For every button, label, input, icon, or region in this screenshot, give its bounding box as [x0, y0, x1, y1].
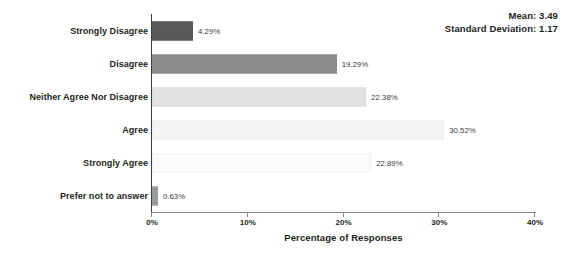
- bar-value-label: 19.29%: [342, 59, 368, 68]
- bar-row: Agree30.52%: [0, 113, 568, 146]
- bar: [152, 87, 366, 106]
- bar-value-label: 22.89%: [376, 158, 402, 167]
- bar-row: Neither Agree Nor Disagree22.38%: [0, 80, 568, 113]
- bar: [152, 54, 337, 73]
- bar-value-label: 22.38%: [371, 92, 397, 101]
- x-axis-tick-label: 40%: [527, 218, 543, 227]
- x-axis-tick: [343, 213, 344, 217]
- bar-row: Strongly Disagree4.29%: [0, 14, 568, 47]
- bar-value-label: 4.29%: [198, 26, 220, 35]
- x-axis-tick: [534, 213, 535, 217]
- x-axis-tick: [151, 213, 152, 217]
- x-axis-tick-label: 0%: [146, 218, 158, 227]
- x-axis-tick: [247, 213, 248, 217]
- survey-bar-chart: Mean: 3.49 Standard Deviation: 1.17 0%10…: [0, 0, 568, 258]
- x-axis-title: Percentage of Responses: [151, 232, 536, 243]
- bar-row: Strongly Agree22.89%: [0, 146, 568, 179]
- bar-row: Prefer not to answer0.63%: [0, 179, 568, 212]
- category-label: Strongly Disagree: [70, 26, 148, 36]
- bar: [152, 186, 158, 205]
- x-axis-tick-label: 20%: [335, 218, 351, 227]
- category-label: Strongly Agree: [83, 158, 148, 168]
- bar-value-label: 0.63%: [163, 191, 185, 200]
- x-axis-tick-label: 10%: [240, 218, 256, 227]
- bar: [152, 153, 371, 172]
- category-label: Neither Agree Nor Disagree: [29, 92, 148, 102]
- bar: [152, 120, 444, 139]
- x-axis-line: [151, 212, 536, 213]
- category-label: Disagree: [110, 59, 148, 69]
- category-label: Agree: [122, 125, 148, 135]
- bar: [152, 21, 193, 40]
- bar-row: Disagree19.29%: [0, 47, 568, 80]
- x-axis-tick: [438, 213, 439, 217]
- bar-value-label: 30.52%: [449, 125, 475, 134]
- category-label: Prefer not to answer: [60, 191, 148, 201]
- plot-area: 0%10%20%30%40% Strongly Disagree4.29%Dis…: [0, 0, 568, 258]
- x-axis-tick-label: 30%: [431, 218, 447, 227]
